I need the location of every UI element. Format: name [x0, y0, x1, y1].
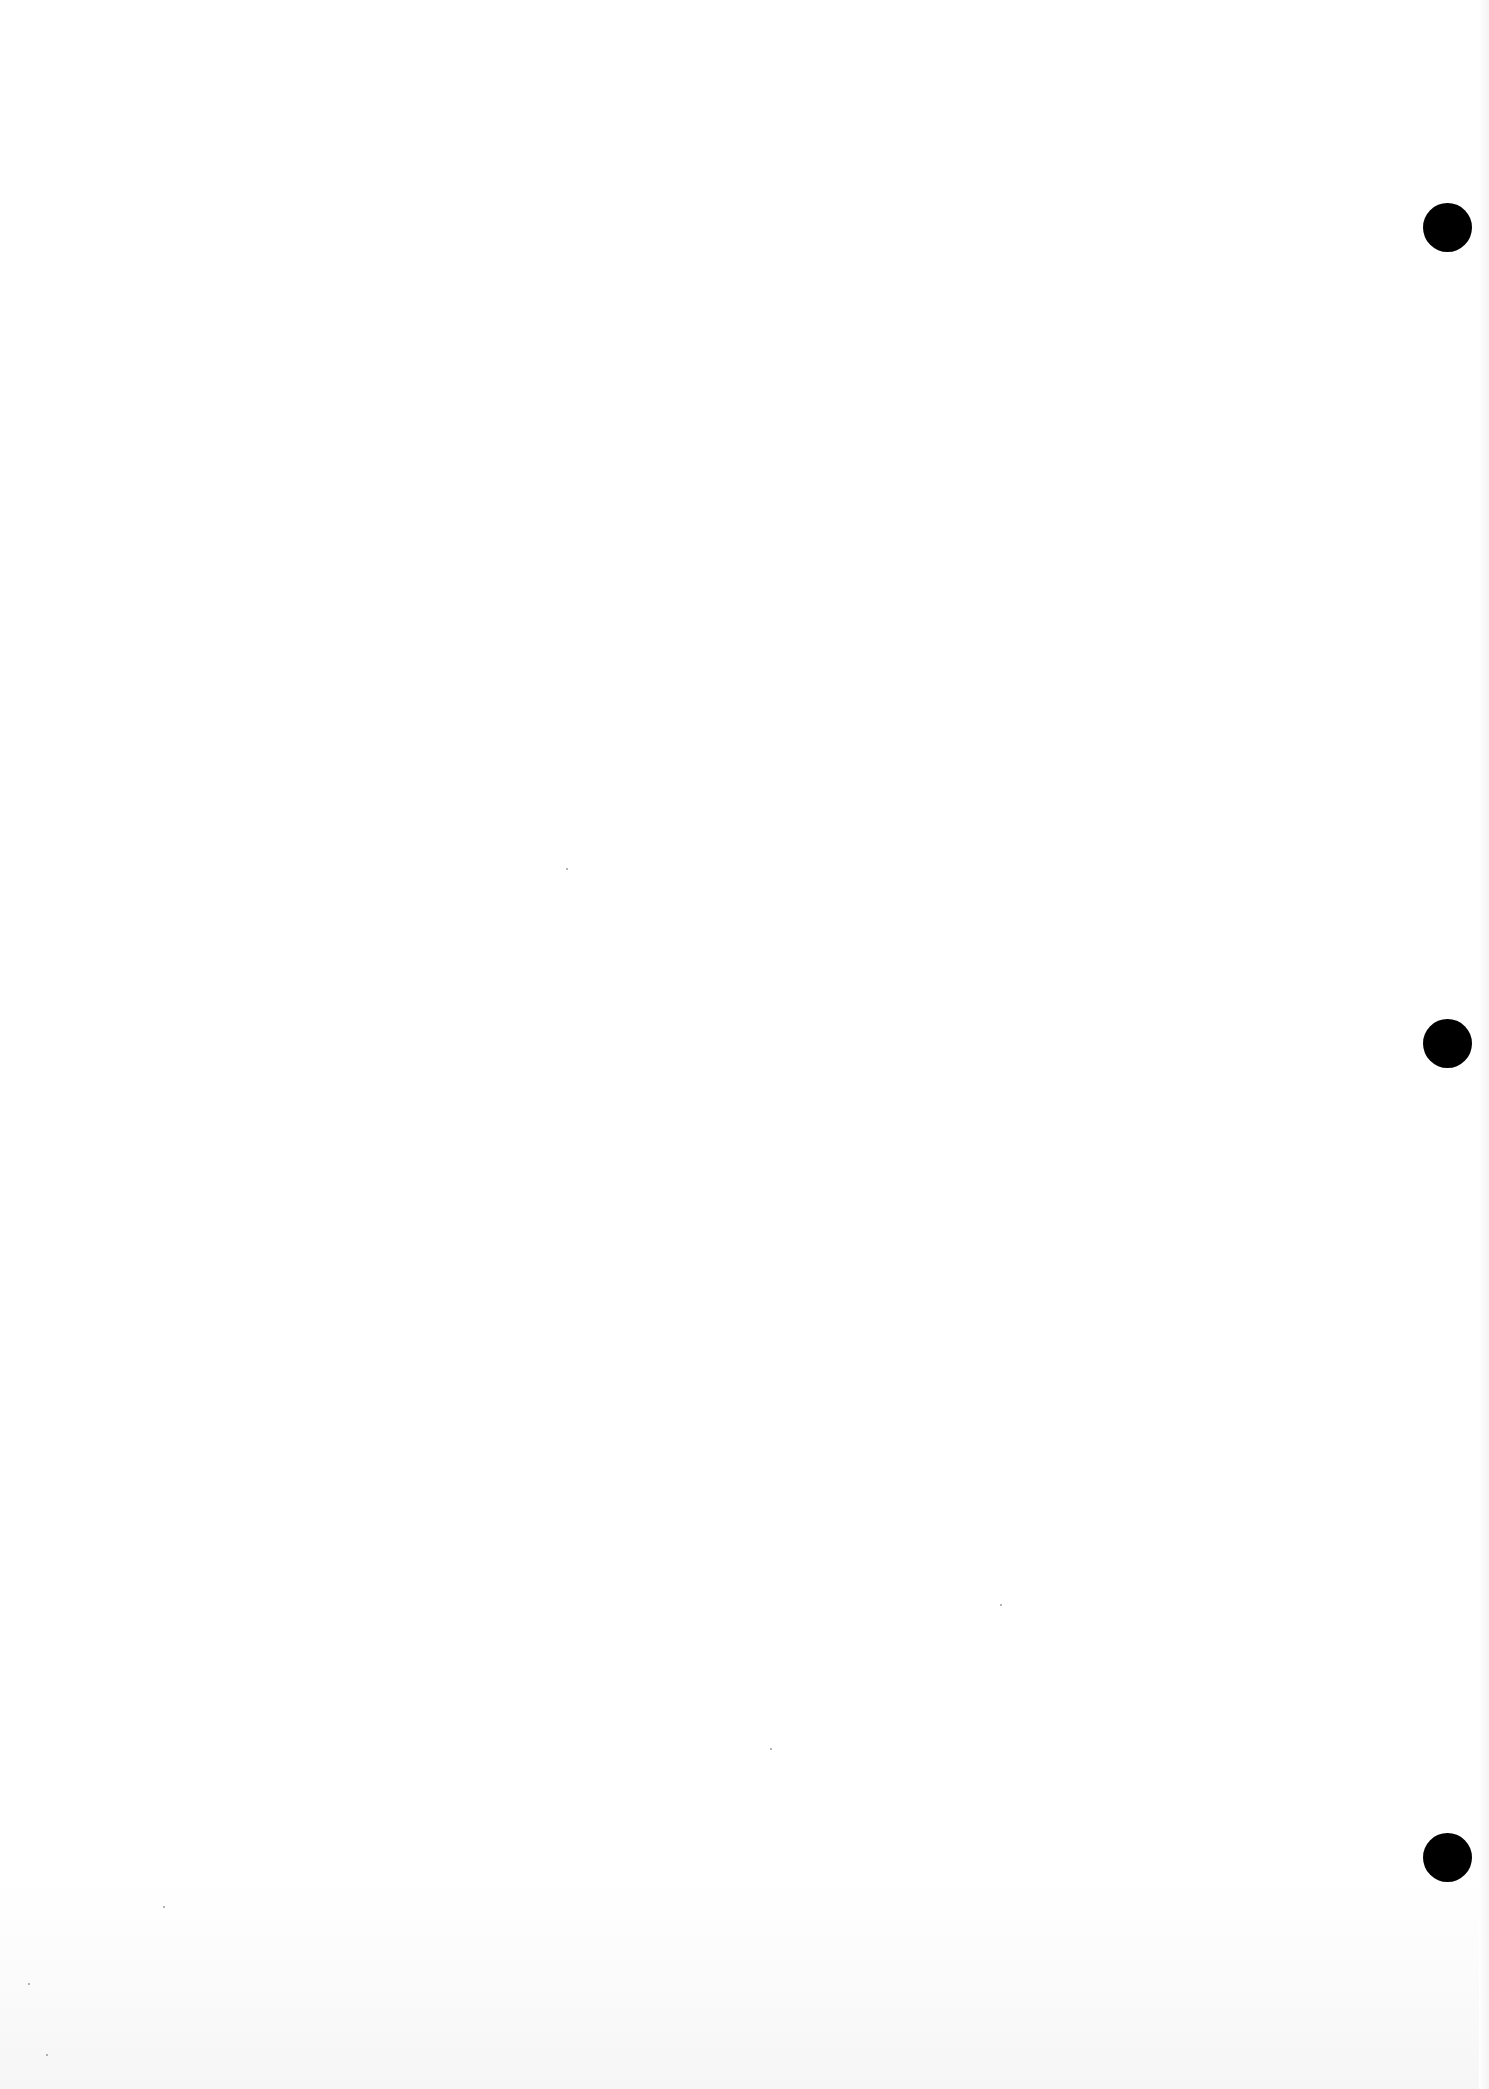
- scan-speck: [28, 1983, 30, 1985]
- blank-page: [0, 0, 1489, 2089]
- punch-hole-bottom: [1423, 1833, 1472, 1882]
- punch-hole-top: [1423, 203, 1472, 252]
- scan-speck: [1000, 1604, 1002, 1606]
- page-edge-shadow: [1479, 0, 1489, 2089]
- punch-hole-middle: [1423, 1019, 1472, 1068]
- scan-speck: [163, 1906, 165, 1908]
- scan-speck: [566, 868, 568, 870]
- scan-speck: [770, 1748, 772, 1750]
- scan-speck: [46, 2054, 48, 2056]
